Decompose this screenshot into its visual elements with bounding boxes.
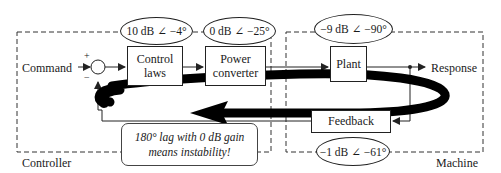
note-line1: 180° lag with 0 dB gain: [135, 130, 245, 144]
plant-gain: −9 dB ∠ −90°: [314, 14, 393, 44]
feedback-label: Feedback: [328, 114, 374, 128]
control-laws-line1: Control: [137, 52, 174, 66]
power-converter-line1: Power: [220, 52, 251, 66]
summing-minus-sign: −: [84, 73, 90, 83]
control-laws-line2: laws: [144, 66, 166, 80]
feedback-block: Feedback: [311, 110, 391, 133]
controller-label: Controller: [22, 157, 71, 169]
response-label: Response: [431, 62, 477, 74]
power-converter-line2: converter: [213, 66, 258, 80]
note-line2: means instability!: [148, 145, 230, 159]
control-laws-block: Control laws: [127, 46, 183, 86]
summing-junction: [91, 60, 105, 74]
plant-label: Plant: [336, 57, 361, 71]
machine-region: [286, 32, 483, 152]
machine-label: Machine: [436, 157, 478, 169]
power-converter-block: Power converter: [205, 46, 266, 86]
summing-plus-sign: +: [84, 51, 90, 61]
control-laws-gain: 10 dB ∠ −4°: [120, 17, 193, 45]
instability-note: 180° lag with 0 dB gain means instabilit…: [121, 123, 258, 166]
power-converter-gain: 0 dB ∠ −25°: [203, 17, 276, 45]
command-label: Command: [22, 62, 72, 74]
feedback-gain: −1 dB ∠ −61°: [316, 137, 390, 166]
plant-block: Plant: [330, 46, 367, 82]
